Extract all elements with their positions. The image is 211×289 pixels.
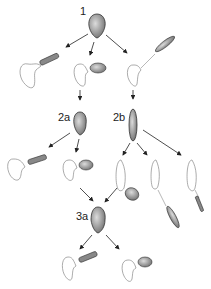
- cell-node-3a: [91, 207, 105, 233]
- cell-row2-left: [8, 154, 47, 180]
- lineage-diagram: [0, 0, 211, 289]
- cell-row2-2b-b: [151, 160, 181, 229]
- cell-node-2a: [74, 112, 87, 135]
- cell-node-1: [89, 14, 105, 38]
- cell-row3-right: [122, 257, 152, 281]
- cell-node-2b: [129, 109, 137, 141]
- cell-row3-left: [62, 251, 97, 280]
- node-label-3a: 3a: [76, 211, 88, 222]
- cell-row2-2b-a: [116, 160, 141, 203]
- node-label-1: 1: [80, 6, 86, 17]
- node-label-2a: 2a: [58, 112, 70, 123]
- cell-row1-left: [20, 53, 59, 88]
- cell-row1-right: [127, 34, 176, 86]
- cell-row2-center: [63, 160, 93, 180]
- node-label-2b: 2b: [113, 112, 125, 123]
- cell-row2-2b-c: [187, 160, 204, 212]
- cell-row1-center: [74, 63, 106, 86]
